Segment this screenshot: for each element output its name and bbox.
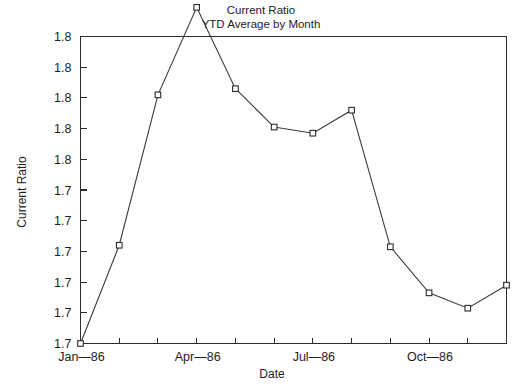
data-point-marker [504,282,510,288]
data-point-marker [310,130,316,136]
x-axis-tick-label: Jul—86 [293,350,335,364]
data-point-marker [426,290,432,296]
data-point-marker [194,5,200,11]
data-point-marker [465,305,471,311]
y-axis-tick-label: 1.7 [54,276,71,290]
data-point-marker [116,242,122,248]
y-axis-tick-label: 1.7 [54,306,71,320]
data-point-marker [271,124,277,130]
data-point-marker [155,92,161,98]
y-axis-tick-label: 1.7 [54,214,71,228]
chart-container: Current Ratio YTD Average by Month 1.71.… [0,0,522,390]
data-point-marker [349,107,355,113]
y-axis-tick-label: 1.8 [54,30,71,44]
chart-background [0,0,522,390]
data-point-marker [78,341,84,347]
y-axis-tick-label: 1.7 [54,245,71,259]
y-axis-tick-label: 1.8 [54,122,71,136]
y-axis-label: Current Ratio [15,156,29,228]
x-axis-tick-label: Oct—86 [407,350,453,364]
y-axis-tick-label: 1.8 [54,153,71,167]
data-point-marker [388,244,394,250]
y-axis-tick-label: 1.8 [54,91,71,105]
x-axis-tick-label: Jan—86 [58,350,105,364]
chart-subtitle: YTD Average by Month [202,18,321,30]
y-axis-tick-label: 1.7 [54,184,71,198]
chart-title: Current Ratio [227,4,295,16]
x-axis-tick-label: Apr—86 [175,350,221,364]
line-chart: Current Ratio YTD Average by Month 1.71.… [0,0,522,390]
data-point-marker [233,86,239,92]
y-axis-tick-label: 1.8 [54,61,71,75]
x-axis-label: Date [259,367,285,381]
